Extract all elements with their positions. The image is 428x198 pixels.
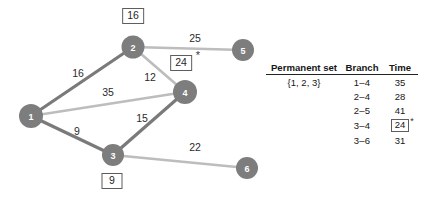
node-5[interactable] bbox=[232, 39, 254, 61]
node-6[interactable] bbox=[236, 157, 258, 179]
node-1[interactable] bbox=[19, 104, 43, 128]
boxed-label-node-3: 9 bbox=[102, 173, 123, 189]
results-table-area: Permanent set Branch Time {1, 2, 3}1–435… bbox=[266, 62, 428, 148]
edge-weight-3-4: 15 bbox=[136, 112, 148, 124]
edge-weight-2-5: 25 bbox=[189, 32, 201, 44]
edge-1-2 bbox=[31, 47, 133, 116]
results-table-head: Permanent set Branch Time bbox=[266, 62, 418, 75]
header-branch: Branch bbox=[342, 62, 382, 75]
cell-permanent-set bbox=[266, 134, 342, 148]
cell-time: 41 bbox=[382, 103, 418, 117]
asterisk-marker-node-4: * bbox=[196, 50, 200, 61]
cell-permanent-set bbox=[266, 103, 342, 117]
edge-3-6 bbox=[113, 155, 247, 168]
header-permanent-set: Permanent set bbox=[266, 62, 342, 75]
diagram-root: 12345616359122515221624*9 Permanent set … bbox=[0, 0, 428, 198]
results-table-body: {1, 2, 3}1–4352–4282–5413–424*3–631 bbox=[266, 75, 418, 148]
cell-time: 28 bbox=[382, 89, 418, 103]
cell-branch: 2–4 bbox=[342, 89, 382, 103]
edge-weight-1-2: 16 bbox=[72, 67, 84, 79]
boxed-label-node-4: 24 bbox=[170, 55, 192, 71]
edge-2-5 bbox=[133, 47, 243, 50]
cell-branch: 3–6 bbox=[342, 134, 382, 148]
table-row: 3–631 bbox=[266, 134, 418, 148]
cell-time: 35 bbox=[382, 75, 418, 90]
results-table: Permanent set Branch Time {1, 2, 3}1–435… bbox=[266, 62, 418, 148]
graph-canvas: 12345616359122515221624*9 bbox=[0, 0, 266, 198]
node-4[interactable] bbox=[173, 80, 197, 104]
cell-time: 31 bbox=[382, 134, 418, 148]
table-row: 2–428 bbox=[266, 89, 418, 103]
cell-time: 24* bbox=[382, 117, 418, 134]
table-row: {1, 2, 3}1–435 bbox=[266, 75, 418, 90]
cell-permanent-set bbox=[266, 117, 342, 134]
cell-branch: 3–4 bbox=[342, 117, 382, 134]
graph-svg bbox=[0, 0, 266, 198]
node-3[interactable] bbox=[102, 144, 124, 166]
selected-time-box: 24 bbox=[391, 119, 410, 133]
cell-branch: 1–4 bbox=[342, 75, 382, 90]
node-2[interactable] bbox=[122, 36, 145, 59]
cell-permanent-set bbox=[266, 89, 342, 103]
edge-weight-3-6: 22 bbox=[189, 141, 201, 153]
table-row: 3–424* bbox=[266, 117, 418, 134]
results-table-header-row: Permanent set Branch Time bbox=[266, 62, 418, 75]
edge-weight-1-3: 9 bbox=[74, 125, 80, 137]
table-row: 2–541 bbox=[266, 103, 418, 117]
edge-1-3 bbox=[31, 116, 113, 155]
boxed-label-node-2: 16 bbox=[122, 8, 144, 24]
cell-branch: 2–5 bbox=[342, 103, 382, 117]
edge-weight-1-4: 35 bbox=[102, 86, 114, 98]
cell-permanent-set: {1, 2, 3} bbox=[266, 75, 342, 90]
asterisk-marker-table: * bbox=[410, 116, 414, 126]
header-time: Time bbox=[382, 62, 418, 75]
edge-weight-2-4: 12 bbox=[144, 71, 156, 83]
